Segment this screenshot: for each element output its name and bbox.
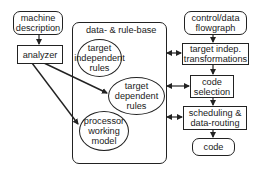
- target-indep-transformations-node: target indep. transformations: [182, 43, 249, 65]
- machine-description-label: machine description: [16, 13, 60, 33]
- control-data-flowgraph-label: control/data flowgraph: [191, 13, 239, 33]
- scheduling-data-routing-node: scheduling & data-routing: [183, 106, 247, 130]
- machine-description-node: machine description: [13, 11, 63, 35]
- control-data-flowgraph-node: control/data flowgraph: [184, 11, 247, 35]
- processor-working-model-label: processor working model: [84, 116, 124, 146]
- target-dependent-rules-node: target dependent rules: [108, 77, 165, 115]
- code-selection-label: code selection: [194, 77, 230, 97]
- data-rule-base-title: data- & rule-base: [86, 25, 156, 35]
- target-independent-rules-node: target independent rules: [77, 39, 122, 77]
- code-label: code: [204, 142, 224, 152]
- target-indep-transformations-label: target indep. transformations: [184, 44, 247, 64]
- processor-working-model-node: processor working model: [79, 111, 129, 151]
- code-node: code: [192, 138, 235, 156]
- analyzer-node: analyzer: [17, 45, 63, 64]
- target-dependent-rules-label: target dependent rules: [115, 81, 158, 111]
- analyzer-label: analyzer: [23, 50, 58, 60]
- code-selection-node: code selection: [190, 75, 234, 98]
- target-independent-rules-label: target independent rules: [74, 43, 125, 73]
- scheduling-data-routing-label: scheduling & data-routing: [189, 108, 242, 128]
